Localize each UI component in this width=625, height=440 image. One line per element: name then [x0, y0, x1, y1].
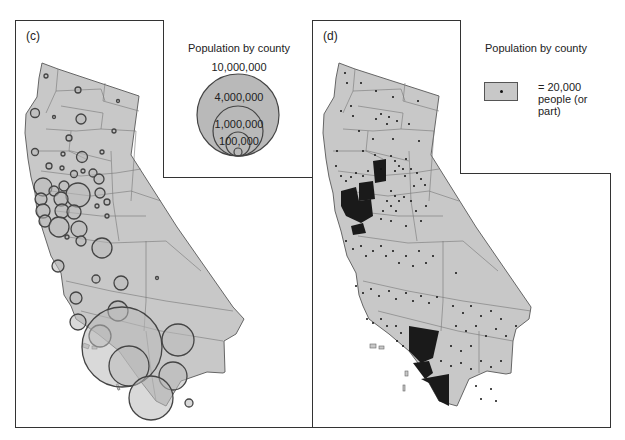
- dot-unit: people (or part): [538, 93, 611, 117]
- legend-label-100k: 100,000: [199, 135, 279, 147]
- dot-value: = 20,000: [538, 81, 611, 93]
- legend-label-1m: 1,000,000: [199, 118, 279, 130]
- dot-swatch-icon: [484, 82, 518, 101]
- circle-size-legend: Population by county 10,000,000 4,000,00…: [163, 20, 314, 178]
- legend-label-10m: 10,000,000: [199, 61, 279, 73]
- legend-label-4m: 4,000,000: [199, 91, 279, 103]
- dot-legend-text: = 20,000 people (or part): [538, 81, 611, 117]
- dot-density-legend: Population by county = 20,000 people (or…: [460, 20, 611, 174]
- proportional-symbol-map-panel: (c): [15, 20, 313, 428]
- legend-title: Population by county: [461, 42, 611, 54]
- dot-density-map-panel: (d): [312, 20, 611, 428]
